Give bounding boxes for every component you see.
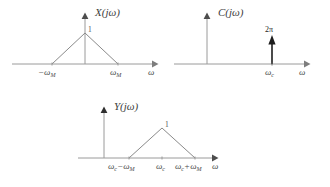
panel-y-title: Y(jω) bbox=[114, 101, 138, 112]
panel-y-spectrum: Y(jω) 1 ωc−ωM ωc ωc+ωM ω bbox=[60, 95, 270, 187]
y-axis-arrowhead bbox=[101, 107, 108, 114]
panel-c-canvas bbox=[170, 0, 330, 92]
tick-label-omega-c: ωc bbox=[265, 68, 274, 78]
triangle-spectrum-y bbox=[129, 128, 195, 158]
panel-y-peak-label: 1 bbox=[165, 121, 169, 129]
impulse-arrowhead-omega-c bbox=[268, 35, 275, 45]
panel-y-canvas bbox=[60, 95, 270, 187]
impulse-area-label: 2π bbox=[265, 26, 273, 34]
signal-spectra-figure: X(jω) 1 −ωM ωM ω C(jω) 2π ωc ω bbox=[0, 0, 330, 187]
panel-x-axis-label: ω bbox=[148, 68, 154, 77]
tick-label-omega-c-plus-omega-m: ωc+ωM bbox=[175, 162, 202, 172]
panel-x-canvas bbox=[0, 0, 170, 92]
y-axis-arrowhead bbox=[82, 13, 89, 20]
tick-label-omega-c-center: ωc bbox=[156, 162, 165, 172]
tick-label-neg-omega-m: −ωM bbox=[38, 68, 56, 78]
y-axis-arrowhead bbox=[204, 13, 211, 20]
panel-c-title: C(jω) bbox=[218, 7, 244, 18]
tick-label-pos-omega-m: ωM bbox=[110, 68, 121, 78]
panel-c-spectrum: C(jω) 2π ωc ω bbox=[170, 0, 330, 92]
panel-x-spectrum: X(jω) 1 −ωM ωM ω bbox=[0, 0, 170, 92]
panel-c-axis-label: ω bbox=[299, 68, 305, 77]
panel-y-axis-label: ω bbox=[212, 162, 218, 171]
panel-x-peak-label: 1 bbox=[88, 26, 92, 34]
tick-label-omega-c-minus-omega-m: ωc−ωM bbox=[108, 162, 135, 172]
panel-x-title: X(jω) bbox=[95, 7, 120, 18]
